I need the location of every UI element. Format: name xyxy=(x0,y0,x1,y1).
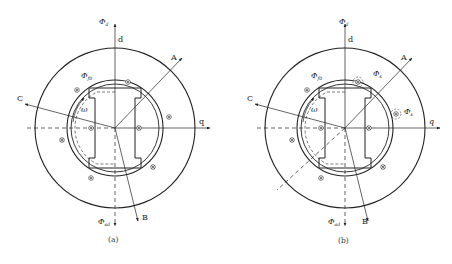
phase-b-label: B xyxy=(142,213,148,222)
resultant-axis-dashed xyxy=(277,128,345,190)
q-axis-label: q xyxy=(199,117,204,126)
q-axis-label: q xyxy=(429,117,434,126)
phase-a-label: A xyxy=(400,53,407,62)
phase-c-label: C xyxy=(17,94,23,103)
phi-s-label-1: Φs xyxy=(373,69,383,79)
d-axis-label: d xyxy=(118,35,123,44)
phi-f0-label: Φf0 xyxy=(81,71,92,81)
phi-f0-label: Φf0 xyxy=(311,71,322,81)
phase-a-label: A xyxy=(170,53,177,62)
phase-b-label: B xyxy=(362,217,368,226)
phase-a-axis xyxy=(115,58,182,128)
panel-b: Φd d q A B C Φf0 ω Φs Φs Φad xyxy=(247,17,440,227)
omega-label: ω xyxy=(81,105,88,114)
panel-a: Φd d q A B C Φf0 ω Φad xyxy=(17,17,210,227)
caption-a: (a) xyxy=(108,235,118,244)
phi-s-label-2: Φs xyxy=(404,107,414,117)
phase-c-label: C xyxy=(247,94,253,103)
omega-label: ω xyxy=(311,105,318,114)
figure-canvas: Φd d q A B C Φf0 ω Φad (a) xyxy=(0,0,452,264)
phase-c-axis xyxy=(255,104,345,128)
phase-c-axis xyxy=(25,104,115,128)
phi-ad-label: Φad xyxy=(328,217,340,227)
phi-d-label: Φd xyxy=(99,17,109,27)
d-axis-label: d xyxy=(348,35,353,44)
phi-ad-label: Φad xyxy=(98,217,110,227)
phi-d-label: Φd xyxy=(339,17,349,27)
caption-b: (b) xyxy=(338,236,349,245)
